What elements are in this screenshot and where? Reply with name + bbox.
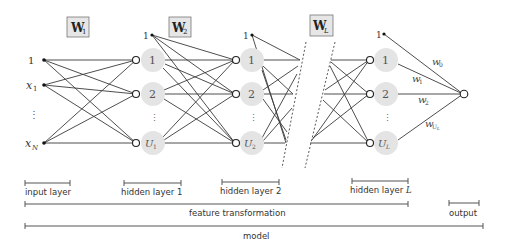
cut-line-right: [305, 42, 335, 168]
cut-line-left: [282, 42, 306, 168]
weight-box-w2: W 2: [169, 17, 191, 37]
svg-text:⋮: ⋮: [383, 113, 392, 123]
edges-into-hiddenL: [310, 60, 369, 143]
bracket-hidden-layer-l: hidden layer L: [350, 178, 412, 195]
hidden-layer-2: 1 1 2 ⋮ U 2: [233, 31, 265, 155]
svg-text:1: 1: [153, 143, 157, 150]
bracket-output: output: [449, 200, 479, 218]
weight-box-w1: W 1: [67, 17, 89, 37]
svg-text:1: 1: [248, 54, 255, 67]
svg-text:x: x: [25, 137, 32, 150]
svg-text:1: 1: [419, 78, 423, 85]
svg-text:⋮: ⋮: [29, 109, 39, 120]
bracket-input-layer: input layer: [25, 180, 71, 197]
svg-text:feature transformation: feature transformation: [189, 208, 286, 218]
svg-text:hidden layer 2: hidden layer 2: [220, 186, 281, 196]
weight-box-wl: W L: [310, 15, 333, 36]
svg-text:2: 2: [382, 88, 389, 101]
edges-input-to-hidden1: [44, 60, 136, 143]
input-layer: 1 x 1 ⋮ x N: [25, 55, 46, 152]
bracket-hidden-layer-1: hidden layer 1: [121, 180, 182, 197]
svg-text:L: L: [385, 143, 390, 150]
svg-text:1: 1: [149, 54, 156, 67]
svg-text:1: 1: [33, 85, 37, 93]
edges-hiddenL-to-output: [384, 34, 463, 140]
svg-text:N: N: [31, 144, 39, 152]
bracket-model: model: [25, 223, 483, 241]
svg-text:model: model: [243, 231, 269, 241]
svg-text:L: L: [323, 27, 329, 35]
edges-hidden1-to-hidden2: [152, 35, 235, 143]
svg-text:2: 2: [252, 143, 256, 150]
svg-text:input layer: input layer: [25, 187, 71, 197]
svg-text:1: 1: [143, 31, 149, 41]
neural-network-diagram: W 1 W 2 W L 1 x 1 ⋮ x N 1 1 2 ⋮ U 1: [0, 0, 505, 247]
svg-text:x: x: [26, 79, 33, 92]
svg-text:output: output: [449, 208, 478, 218]
svg-text:1: 1: [376, 30, 382, 40]
hidden-layer-1: 1 1 2 ⋮ U 1: [133, 31, 166, 155]
output-node: [460, 90, 468, 98]
svg-text:2: 2: [425, 99, 429, 106]
svg-text:⋮: ⋮: [150, 113, 159, 123]
bracket-hidden-layer-2: hidden layer 2: [220, 179, 281, 196]
svg-text:L: L: [436, 126, 440, 131]
svg-text:1: 1: [382, 54, 389, 67]
hidden-layer-l: 1 1 2 ⋮ U L: [367, 30, 399, 155]
svg-text:2: 2: [248, 88, 255, 101]
svg-text:1: 1: [243, 31, 249, 41]
bracket-feature-transformation: feature transformation: [25, 201, 408, 218]
svg-text:2: 2: [149, 88, 156, 101]
svg-text:hidden layer L: hidden layer L: [350, 185, 412, 195]
svg-text:hidden layer 1: hidden layer 1: [121, 187, 182, 197]
svg-text:2: 2: [183, 28, 187, 36]
svg-text:⋮: ⋮: [249, 113, 258, 123]
svg-text:0: 0: [439, 61, 443, 68]
svg-text:1: 1: [82, 28, 86, 36]
svg-text:1: 1: [28, 55, 34, 66]
